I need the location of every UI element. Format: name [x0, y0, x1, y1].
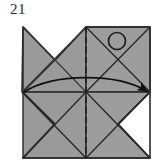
origami-figure: 21 — [0, 0, 163, 167]
origami-diagram — [0, 0, 163, 167]
